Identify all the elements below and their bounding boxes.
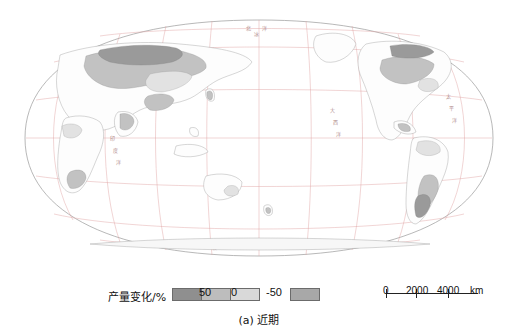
figure-caption: (a) 近期 [0,311,518,327]
svg-text:印: 印 [110,135,115,142]
svg-text:西: 西 [333,119,338,126]
figure-root: 北 冰 洋 大 西 洋 太 平 洋 印 度 洋 南 极 洲 [0,0,518,333]
scale-bar [386,289,478,297]
eurasia-shade-north [98,45,182,65]
legend-swatch-0 [172,288,202,301]
svg-text:北: 北 [246,25,251,32]
svg-text:洋: 洋 [116,159,121,166]
map-svg: 北 冰 洋 大 西 洋 太 平 洋 印 度 洋 南 极 洲 [0,0,518,278]
scale-value-0: 0 [383,285,389,296]
world-map: 北 冰 洋 大 西 洋 太 平 洋 印 度 洋 南 极 洲 [0,0,518,278]
scale-value-2: 4000 [437,285,459,296]
scale-value-1: 2000 [406,285,428,296]
svg-text:洋: 洋 [262,25,267,32]
legend-swatch-3 [290,288,320,301]
scale-unit: km [470,285,483,296]
legend-tick-minus-50: -50 [266,286,282,298]
svg-text:大: 大 [330,107,335,114]
legend-tick-0: 0 [231,286,237,298]
scale-line [386,293,478,294]
svg-text:洋: 洋 [336,131,341,138]
legend-tick-50: 50 [199,286,211,298]
north-america-shade-east [418,78,438,91]
svg-text:冰: 冰 [254,31,259,37]
svg-text:平: 平 [449,105,454,112]
svg-text:太: 太 [446,93,451,100]
legend-title: 产量变化/% [108,288,166,304]
svg-text:洋: 洋 [452,117,457,124]
new-zealand-shade [266,207,271,213]
svg-text:度: 度 [113,147,118,154]
